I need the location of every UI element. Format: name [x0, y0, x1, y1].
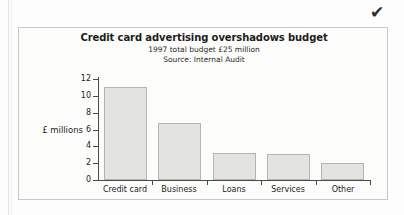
bar [158, 123, 201, 180]
bar [213, 153, 256, 180]
y-axis-tick [93, 96, 99, 97]
bar [104, 87, 147, 180]
y-axis-tick-label: 12 [63, 75, 91, 83]
y-axis-tick [93, 180, 99, 181]
x-axis-category-label: Other [316, 185, 370, 195]
chart-panel: Credit card advertising overshadows budg… [18, 27, 388, 200]
x-axis-category-label: Loans [207, 185, 261, 195]
bar [321, 163, 364, 180]
page-canvas: ✔ Credit card advertising overshadows bu… [0, 0, 404, 215]
y-axis-tick-label: 0 [63, 176, 91, 184]
x-axis-category-label: Services [261, 185, 315, 195]
y-axis-tick [93, 146, 99, 147]
x-axis-line [98, 180, 370, 181]
y-axis-tick [93, 113, 99, 114]
y-axis-tick-label: 6 [63, 126, 91, 134]
x-axis-category-label: Business [152, 185, 206, 195]
y-axis-tick-label: 4 [63, 142, 91, 150]
page-edge-rule [8, 0, 9, 215]
checkmark-icon: ✔ [366, 3, 388, 21]
plot-area: £ millions 024681012Credit cardBusinessL… [19, 28, 389, 201]
y-axis-tick [93, 79, 99, 80]
x-axis-category-label: Credit card [98, 185, 152, 195]
y-axis-tick-label: 10 [63, 92, 91, 100]
y-axis-tick-label: 2 [63, 159, 91, 167]
y-axis-tick-label: 8 [63, 109, 91, 117]
y-axis-tick [93, 163, 99, 164]
bar [267, 154, 310, 180]
y-axis-tick [93, 130, 99, 131]
page-edge-rule-secondary [11, 0, 12, 215]
x-axis-separator [370, 180, 371, 185]
